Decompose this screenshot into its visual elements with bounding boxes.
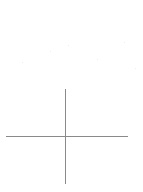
noise-speck bbox=[50, 51, 51, 52]
noise-speck bbox=[97, 59, 98, 60]
blank-canvas bbox=[0, 0, 143, 192]
crosshair-vertical-line bbox=[65, 89, 66, 184]
noise-speck bbox=[135, 68, 136, 69]
noise-speck bbox=[22, 62, 23, 63]
crosshair-horizontal-line bbox=[6, 136, 128, 137]
noise-speck bbox=[68, 45, 69, 46]
noise-speck bbox=[124, 42, 125, 43]
